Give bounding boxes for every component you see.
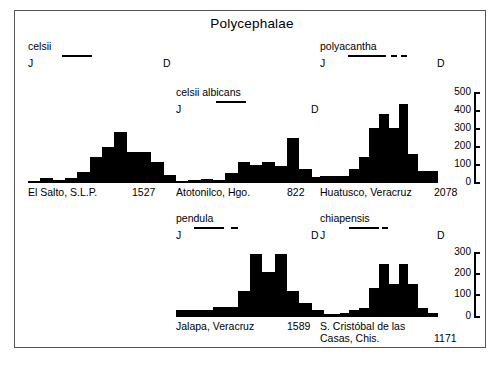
month-end-label: D	[311, 230, 319, 240]
month-end-label: D	[437, 58, 445, 68]
histogram-bar	[359, 157, 369, 182]
axis-tick-label: 500	[454, 87, 471, 97]
sample-size-label: 2078	[434, 186, 457, 198]
histogram-bar	[379, 264, 389, 316]
histogram-plot	[320, 252, 438, 316]
histogram-plot	[320, 92, 438, 182]
flowering-segment	[216, 101, 246, 103]
histogram-bar	[428, 171, 438, 182]
axis-tick: 400	[474, 110, 480, 112]
axis-tick-label: 100	[454, 159, 471, 169]
taxon-name: pendula	[176, 212, 213, 224]
histogram-bar	[418, 171, 428, 182]
histogram-bar	[287, 291, 299, 316]
month-start-label: J	[28, 58, 33, 68]
flowering-period-bar: J D	[176, 101, 324, 115]
histogram-bar	[262, 162, 274, 182]
locality-label-line2: Casas, Chis.	[320, 332, 380, 344]
locality-label: Huatusco, Veracruz	[320, 186, 412, 198]
y-axis-bottom: 300 200 100 0	[452, 252, 496, 316]
sample-size-label: 1589	[287, 320, 310, 332]
histogram-bars	[176, 126, 324, 182]
axis-tick: 100	[474, 164, 480, 166]
histogram-bar	[299, 169, 311, 182]
axis-tick: 300	[474, 128, 480, 130]
histogram-bar	[102, 147, 114, 182]
panel-celsii-albicans: celsii albicans J D A	[176, 86, 324, 202]
flowering-period-bar: J D	[28, 55, 176, 69]
histogram-bar	[275, 166, 287, 182]
month-start-label: J	[176, 104, 181, 114]
taxon-name: polyacantha	[320, 40, 377, 52]
axis-tick-label: 0	[465, 311, 471, 321]
histogram-bar	[408, 284, 418, 316]
flowering-segment	[348, 55, 386, 57]
locality-label: El Salto, S.L.P.	[28, 186, 97, 198]
plot-baseline	[28, 182, 176, 184]
flowering-segment	[401, 55, 407, 57]
flowering-segment	[231, 227, 238, 229]
panel-pendula: pendula J D Ja	[176, 212, 324, 342]
histogram-bar	[389, 128, 399, 182]
histogram-bar	[389, 284, 399, 316]
axis-tick: 0	[474, 182, 480, 184]
histogram-plot	[176, 126, 324, 182]
histogram-bar	[399, 264, 409, 316]
axis-tick: 300	[474, 252, 480, 254]
axis-spine	[474, 92, 476, 182]
flowering-period-bar: J D	[320, 227, 460, 241]
axis-tick: 200	[474, 146, 480, 148]
histogram-bar	[238, 162, 250, 182]
histogram-bars	[28, 98, 176, 182]
taxon-name: celsii	[28, 40, 51, 52]
histogram-bar	[399, 104, 409, 182]
month-start-label: J	[320, 230, 325, 240]
figure-title: Polycephalae	[0, 16, 504, 31]
sample-size-label: 1527	[132, 186, 155, 198]
histogram-bar	[379, 114, 389, 182]
axis-tick-label: 300	[454, 247, 471, 257]
flowering-period-bar: J D	[176, 227, 324, 241]
axis-tick-label: 0	[465, 177, 471, 187]
axis-tick: 100	[474, 294, 480, 296]
histogram-bar	[369, 128, 379, 182]
month-start-label: J	[176, 230, 181, 240]
axis-tick-label: 400	[454, 105, 471, 115]
histogram-bar	[238, 291, 250, 316]
month-end-label: D	[163, 58, 171, 68]
plot-baseline	[176, 316, 324, 318]
flowering-segment	[349, 227, 379, 229]
sample-size-label: 822	[287, 186, 305, 198]
histogram-bar	[408, 154, 418, 182]
flowering-segment	[382, 227, 388, 229]
plot-baseline	[320, 182, 438, 184]
month-end-label: D	[311, 104, 319, 114]
month-start-label: J	[320, 58, 325, 68]
taxon-name: celsii albicans	[176, 86, 241, 98]
histogram-bars	[320, 92, 438, 182]
figure-polycephalae: Polycephalae celsii J D	[0, 0, 504, 367]
axis-spine	[474, 252, 476, 316]
histogram-bar	[287, 138, 299, 182]
flowering-segment	[194, 227, 224, 229]
histogram-bars	[176, 250, 324, 316]
axis-tick-label: 100	[454, 289, 471, 299]
axis-tick: 500	[474, 92, 480, 94]
histogram-bar	[77, 172, 89, 183]
taxon-name: chiapensis	[320, 212, 370, 224]
panel-polyacantha: polyacantha J D	[320, 40, 460, 200]
histogram-bar	[90, 157, 102, 182]
month-end-label: D	[437, 230, 445, 240]
axis-tick: 200	[474, 273, 480, 275]
histogram-bar	[250, 165, 262, 182]
histogram-bar	[275, 254, 287, 316]
histogram-bar	[151, 162, 163, 182]
histogram-bar	[127, 152, 139, 182]
y-axis-top: 500 400 300 200 100 0	[452, 92, 496, 182]
histogram-bar	[349, 169, 359, 183]
axis-tick: 0	[474, 316, 480, 318]
flowering-period-bar: J D	[320, 55, 460, 69]
plot-baseline	[320, 316, 438, 318]
axis-tick-label: 200	[454, 141, 471, 151]
axis-tick-label: 300	[454, 123, 471, 133]
